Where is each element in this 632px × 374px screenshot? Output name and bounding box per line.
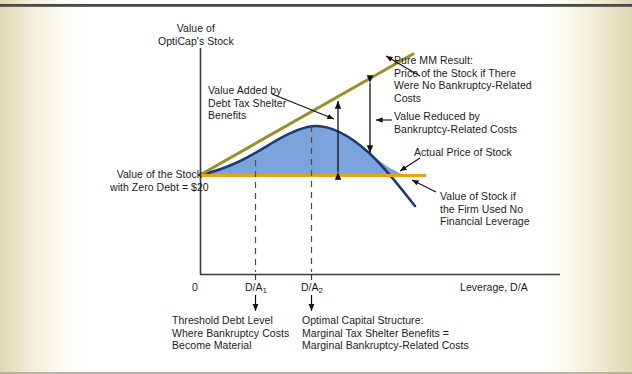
x-tick-label-da1-text: D/A <box>245 281 263 293</box>
annotation-pure-mm: Pure MM Result: Price of the Stock if Th… <box>394 54 532 104</box>
x-tick-label-da2: D/A2 <box>292 281 332 298</box>
chart-stage: Value of OptiCap's Stock Value Added by … <box>0 0 632 374</box>
x-axis-label: Leverage, D/A <box>460 281 528 294</box>
x-tick-label-da2-text: D/A <box>301 281 319 293</box>
x-tick-label-da1-subscript: 1 <box>263 286 268 295</box>
annotation-value-added: Value Added by Debt Tax Shelter Benefits <box>208 84 286 122</box>
caption-threshold-debt-level: Threshold Debt Level Where Bankruptcy Co… <box>172 314 289 352</box>
annotation-actual-price: Actual Price of Stock <box>414 146 512 159</box>
annotation-value-no-leverage: Value of Stock if the Firm Used No Finan… <box>440 190 530 228</box>
figure-page: Value of OptiCap's Stock Value Added by … <box>0 0 632 374</box>
x-tick-label-da1: D/A1 <box>236 281 276 298</box>
axis-origin-label: 0 <box>192 281 198 294</box>
annotation-zero-debt: Value of the Stock with Zero Debt = $20 <box>110 168 202 193</box>
annotation-value-reduced: Value Reduced by Bankruptcy-Related Cost… <box>394 110 517 135</box>
x-tick-label-da2-subscript: 2 <box>319 286 324 295</box>
actual-price-leader <box>400 158 420 171</box>
value-no-leverage-leader <box>412 180 436 192</box>
y-axis-label: Value of OptiCap's Stock <box>158 22 234 47</box>
actual-price-area-fill <box>200 126 404 175</box>
caption-optimal-capital-structure: Optimal Capital Structure: Marginal Tax … <box>302 314 469 352</box>
